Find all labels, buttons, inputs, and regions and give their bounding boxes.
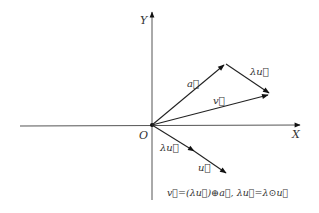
vector-diagram: Y X O a⃗ λu⃗ v⃗ λu⃗ u⃗ v⃗=(λu⃗)⊕a⃗, λu⃗=… — [0, 0, 319, 213]
label-lambda-u-top: λu⃗ — [249, 66, 269, 77]
label-lambda-u-bottom: λu⃗ — [159, 142, 179, 153]
x-axis-label: X — [291, 128, 301, 141]
label-a: a⃗ — [187, 78, 199, 89]
label-v: v⃗ — [213, 95, 225, 106]
x-axis — [20, 125, 300, 126]
label-u: u⃗ — [198, 162, 210, 173]
y-axis-label: Y — [140, 14, 149, 27]
equation: v⃗=(λu⃗)⊕a⃗, λu⃗=λ⊙u⃗ — [167, 187, 288, 198]
origin-label: O — [139, 129, 148, 142]
